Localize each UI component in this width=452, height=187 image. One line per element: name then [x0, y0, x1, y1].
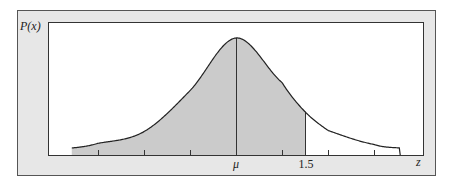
chart: P(x) z μ 1.5	[0, 0, 452, 187]
tick-label-cut: 1.5	[299, 157, 314, 171]
y-axis-label: P(x)	[19, 19, 41, 33]
x-axis-label: z	[415, 155, 421, 169]
tick-label-mean: μ	[232, 157, 239, 171]
